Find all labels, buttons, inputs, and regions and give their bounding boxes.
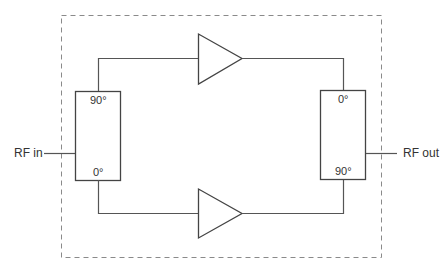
lower-output-path: [242, 179, 344, 214]
input-hybrid-top-label: 90°: [90, 94, 107, 106]
upper-output-path: [242, 59, 344, 91]
balanced-amplifier-diagram: RF in 90° 0° 0° 90° RF out: [0, 0, 446, 267]
rf-in-label: RF in: [14, 146, 43, 160]
input-hybrid-bottom-label: 0°: [93, 166, 104, 178]
output-hybrid-bottom-label: 90°: [335, 165, 352, 177]
lower-amplifier-icon: [199, 189, 243, 238]
upper-input-path: [99, 59, 199, 92]
upper-amplifier-icon: [199, 34, 243, 84]
rf-out-label: RF out: [403, 146, 440, 160]
lower-input-path: [99, 180, 199, 214]
output-hybrid-top-label: 0°: [338, 93, 349, 105]
